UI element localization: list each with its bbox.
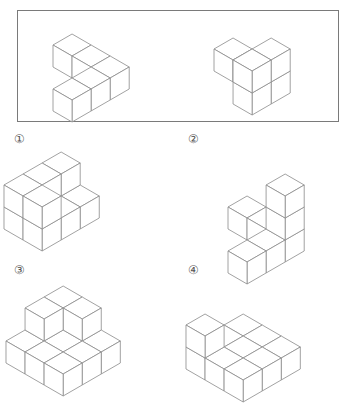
option-1-label: ① <box>14 133 25 145</box>
option-3-figure[interactable] <box>4 284 122 398</box>
option-1-figure[interactable] <box>2 150 101 253</box>
prompt-figure-left <box>51 32 131 124</box>
option-2-figure[interactable] <box>226 172 306 286</box>
option-4-label: ④ <box>188 264 199 276</box>
option-3-label: ③ <box>14 264 25 276</box>
option-2-label: ② <box>188 133 199 145</box>
prompt-figure-right <box>212 36 292 117</box>
option-4-figure[interactable] <box>184 312 302 404</box>
prompt-box <box>17 10 339 122</box>
